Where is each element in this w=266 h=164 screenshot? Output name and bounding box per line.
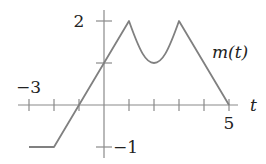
y-tick-label-neg1: −1 bbox=[113, 137, 138, 157]
x-tick-label-neg3: −3 bbox=[16, 77, 41, 97]
x-axis-label: t bbox=[250, 95, 257, 115]
x-tick-label-5: 5 bbox=[224, 113, 235, 133]
m-t-curve bbox=[29, 21, 229, 147]
chart-canvas: 2 −1 −3 5 t m(t) bbox=[0, 0, 266, 164]
curve-label: m(t) bbox=[212, 42, 248, 62]
y-tick-label-2: 2 bbox=[74, 11, 85, 31]
